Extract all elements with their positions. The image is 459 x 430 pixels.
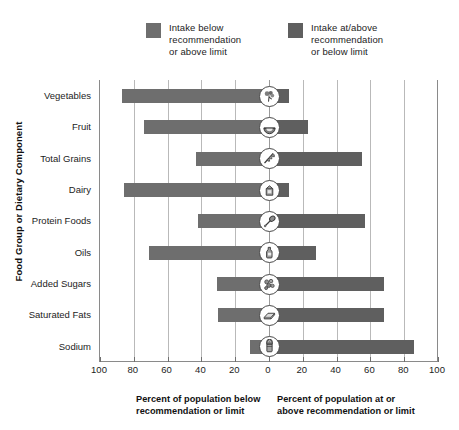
bar-below-fruit[interactable] <box>144 120 269 134</box>
x-tick-label-0: 100 <box>84 364 114 375</box>
legend-swatch-below <box>146 23 161 38</box>
chart-row <box>100 80 437 112</box>
x-tick-100 <box>438 357 439 362</box>
legend-item-below: Intake below recommendation or above lim… <box>146 22 241 59</box>
bar-below-oils[interactable] <box>149 246 269 260</box>
bar-below-vegetables[interactable] <box>122 89 269 103</box>
bar-above-saturated-fats[interactable] <box>269 308 384 322</box>
legend-item-above: Intake at/above recommendation or below … <box>288 22 383 59</box>
sugar-cubes-icon <box>259 274 280 295</box>
x-tick-label-9: 80 <box>388 364 418 375</box>
fruit-slice-icon <box>259 117 280 138</box>
y-label-total-grains: Total Grains <box>40 143 91 175</box>
protein-icon <box>259 211 280 232</box>
y-label-saturated-fats: Saturated Fats <box>29 299 91 331</box>
y-label-added-sugars: Added Sugars <box>31 268 91 300</box>
chart-row <box>100 299 437 331</box>
broccoli-icon <box>259 86 280 107</box>
y-label-fruit: Fruit <box>72 111 91 143</box>
chart-row <box>100 174 437 206</box>
chart-row <box>100 143 437 175</box>
y-axis-labels: VegetablesFruitTotal GrainsDairyProtein … <box>0 80 96 362</box>
x-tick-label-6: 20 <box>287 364 317 375</box>
bar-above-added-sugars[interactable] <box>269 277 384 291</box>
bar-above-total-grains[interactable] <box>269 152 362 166</box>
salt-shaker-icon <box>259 336 280 357</box>
oil-bottle-icon <box>259 242 280 263</box>
bar-above-protein-foods[interactable] <box>269 214 365 228</box>
x-axis-tick-labels: 10080604020020406080100 <box>0 364 459 378</box>
x-tick-label-3: 40 <box>185 364 215 375</box>
bar-above-sodium[interactable] <box>269 340 414 354</box>
x-tick-label-7: 40 <box>321 364 351 375</box>
y-label-protein-foods: Protein Foods <box>32 205 91 237</box>
chart-row <box>100 268 437 300</box>
chart-plot-area <box>99 80 438 362</box>
chart-row <box>100 237 437 269</box>
x-tick-label-10: 100 <box>422 364 452 375</box>
caption-below: Percent of population below recommendati… <box>136 393 260 418</box>
milk-carton-icon <box>259 180 280 201</box>
chart-row <box>100 331 437 363</box>
chart-row <box>100 111 437 143</box>
butter-icon <box>259 305 280 326</box>
legend-label-below: Intake below recommendation or above lim… <box>169 22 241 59</box>
y-label-vegetables: Vegetables <box>44 80 91 112</box>
chart-row <box>100 205 437 237</box>
y-label-dairy: Dairy <box>69 174 91 206</box>
chart-legend: Intake below recommendation or above lim… <box>0 22 459 70</box>
bar-below-dairy[interactable] <box>124 183 269 197</box>
x-tick-label-4: 20 <box>219 364 249 375</box>
x-tick-label-1: 80 <box>118 364 148 375</box>
legend-label-above: Intake at/above recommendation or below … <box>311 22 383 59</box>
y-label-oils: Oils <box>75 237 91 269</box>
caption-above: Percent of population at or above recomm… <box>277 393 415 418</box>
x-tick-label-8: 60 <box>354 364 384 375</box>
legend-swatch-above <box>288 23 303 38</box>
grain-icon <box>259 148 280 169</box>
y-label-sodium: Sodium <box>59 331 91 363</box>
x-tick-label-5: 0 <box>253 364 283 375</box>
x-tick-label-2: 60 <box>152 364 182 375</box>
